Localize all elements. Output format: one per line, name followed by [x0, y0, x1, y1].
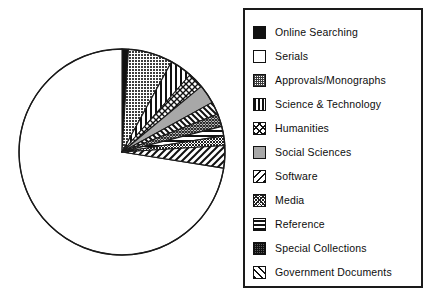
legend-item-label: Reference	[275, 218, 325, 231]
legend-swatch-dense-dots-dark-icon	[253, 242, 266, 255]
legend-item-label: Software	[275, 170, 318, 183]
legend-swatch-back-diagonal-icon	[253, 170, 266, 183]
legend-item[interactable]: Approvals/Monographs	[253, 68, 417, 92]
legend-swatch-light-gray-icon	[253, 146, 266, 159]
pie-plot-area	[0, 0, 235, 297]
legend-item[interactable]: Humanities	[253, 116, 417, 140]
legend-item-list: Online SearchingSerialsApprovals/Monogra…	[253, 20, 417, 284]
legend-item-label: Special Collections	[275, 242, 367, 255]
chart-legend: Online SearchingSerialsApprovals/Monogra…	[243, 8, 423, 288]
legend-item[interactable]: Government Documents	[253, 260, 417, 284]
legend-item-label: Approvals/Monographs	[275, 74, 386, 87]
legend-swatch-solid-white-icon	[253, 50, 266, 63]
legend-swatch-vertical-lines-icon	[253, 98, 266, 111]
legend-swatch-cross-hatch-icon	[253, 122, 266, 135]
legend-item[interactable]: Social Sciences	[253, 140, 417, 164]
pie-chart-figure: Online SearchingSerialsApprovals/Monogra…	[0, 0, 431, 297]
pie-svg	[0, 0, 235, 297]
legend-item-label: Social Sciences	[275, 146, 351, 159]
legend-item-label: Humanities	[275, 122, 329, 135]
legend-item[interactable]: Online Searching	[253, 20, 417, 44]
legend-item-label: Online Searching	[275, 26, 358, 39]
legend-item[interactable]: Serials	[253, 44, 417, 68]
legend-swatch-fine-crosshatch-icon	[253, 194, 266, 207]
legend-item[interactable]: Science & Technology	[253, 92, 417, 116]
legend-item[interactable]: Media	[253, 188, 417, 212]
legend-item-label: Government Documents	[275, 266, 392, 279]
legend-item[interactable]: Software	[253, 164, 417, 188]
legend-swatch-forward-diagonal-icon	[253, 266, 266, 279]
legend-swatch-dense-dots-icon	[253, 74, 266, 87]
legend-item[interactable]: Special Collections	[253, 236, 417, 260]
legend-item-label: Science & Technology	[275, 98, 381, 111]
pie-slices-group	[19, 49, 225, 255]
legend-swatch-horizontal-lines-icon	[253, 218, 266, 231]
legend-item-label: Media	[275, 194, 304, 207]
legend-item-label: Serials	[275, 50, 308, 63]
legend-item[interactable]: Reference	[253, 212, 417, 236]
legend-swatch-solid-black-icon	[253, 26, 266, 39]
